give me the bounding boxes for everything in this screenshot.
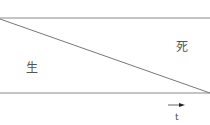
time-arrow-icon: [168, 103, 185, 107]
death-label: 死: [176, 40, 188, 54]
diagonal-divider-line: [0, 19, 210, 93]
life-label: 生: [26, 61, 38, 75]
time-axis-label: t: [175, 112, 179, 122]
life-death-diagram: 生 死 t: [0, 0, 210, 125]
